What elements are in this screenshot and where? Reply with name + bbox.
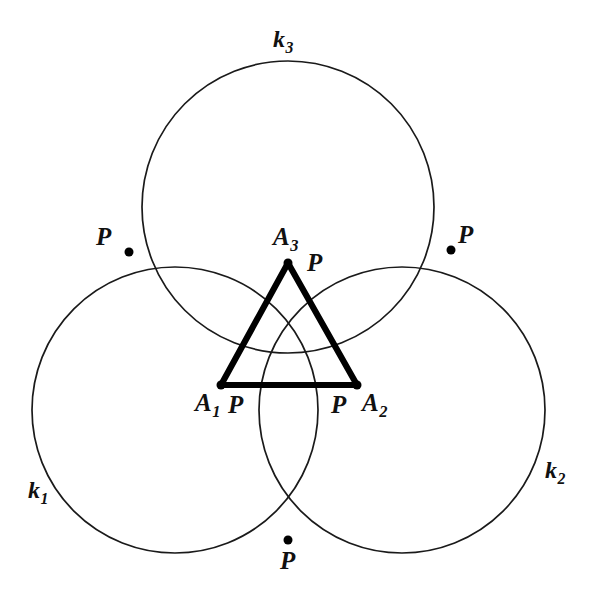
label-vertex-a2: A2 [362,390,387,421]
vertex-dot-a3 [284,259,293,268]
label-circle-k2: k2 [545,458,565,487]
intersection-dot-bottom [284,536,293,545]
vertex-dot-a1 [217,381,226,390]
label-point-p-at-a3: P [307,250,322,275]
label-circle-k1: k1 [28,478,48,507]
vertex-dot-a2 [353,381,362,390]
intersection-dot-right [447,246,456,255]
triangle-side-a2-a3 [288,263,357,385]
circle-k3 [142,61,434,353]
circle-k1 [32,267,318,553]
label-point-p-at-a1: P [228,392,243,417]
label-vertex-a3: A3 [273,224,298,255]
label-vertex-a1: A1 [195,390,220,421]
label-point-p-bottom-outer: P [280,548,295,573]
circle-k2 [259,267,545,553]
label-point-p-at-a2: P [331,392,346,417]
figure-root: k1 k2 k3 A1 A2 A3 P P P P P P [0,0,599,609]
label-circle-k3: k3 [273,27,293,56]
label-point-p-right-outer: P [458,222,473,247]
triangle-side-a3-a1 [221,263,288,385]
circles-group [32,61,545,553]
intersection-dot-left [125,248,134,257]
three-circles-diagram [0,0,599,609]
label-point-p-left-outer: P [96,224,111,249]
